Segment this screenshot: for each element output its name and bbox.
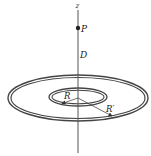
inner-radius-label: R	[63, 91, 71, 101]
distance-d-label: D	[79, 50, 87, 60]
z-axis-label: z	[75, 2, 80, 10]
outer-radius-label: R′	[105, 104, 114, 114]
point-p-label: P	[80, 24, 88, 34]
ring-charge-diagram: z P D R R′	[0, 0, 151, 156]
point-p-dot	[76, 26, 80, 30]
